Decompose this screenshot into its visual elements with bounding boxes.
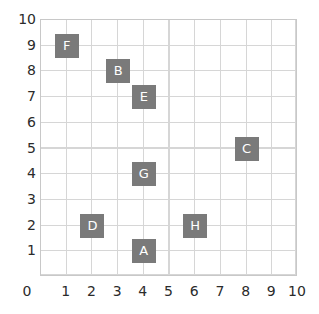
data-point-b[interactable]: B — [106, 59, 130, 83]
data-point-g[interactable]: G — [132, 162, 156, 186]
plot-area: ABCDEFGH — [40, 19, 297, 276]
data-point-h[interactable]: H — [183, 214, 207, 238]
y-tick-label-4: 4 — [2, 165, 36, 181]
data-point-a[interactable]: A — [132, 239, 156, 263]
scatter-plot-chart: 10987654321 ABCDEFGH 12345678910 0 — [0, 0, 319, 314]
data-point-c[interactable]: C — [235, 137, 259, 161]
x-tick-label-10: 10 — [282, 283, 312, 299]
y-tick-label-6: 6 — [2, 114, 36, 130]
y-axis: 10987654321 — [0, 19, 36, 276]
data-point-d[interactable]: D — [80, 214, 104, 238]
y-tick-label-10: 10 — [2, 11, 36, 27]
y-tick-label-7: 7 — [2, 88, 36, 104]
x-axis: 12345678910 — [40, 283, 297, 303]
axis-origin-label: 0 — [16, 283, 38, 299]
y-tick-label-1: 1 — [2, 242, 36, 258]
data-point-f[interactable]: F — [55, 34, 79, 58]
y-tick-label-2: 2 — [2, 217, 36, 233]
y-tick-label-3: 3 — [2, 191, 36, 207]
data-point-e[interactable]: E — [132, 85, 156, 109]
y-tick-label-8: 8 — [2, 62, 36, 78]
y-tick-label-5: 5 — [2, 140, 36, 156]
y-tick-label-9: 9 — [2, 37, 36, 53]
